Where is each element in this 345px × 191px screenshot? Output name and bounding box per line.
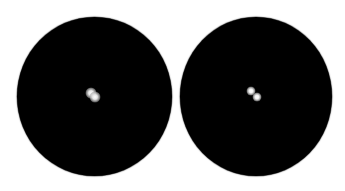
left-point-source-2 [90, 92, 101, 103]
right-point-source-2 [253, 93, 262, 102]
